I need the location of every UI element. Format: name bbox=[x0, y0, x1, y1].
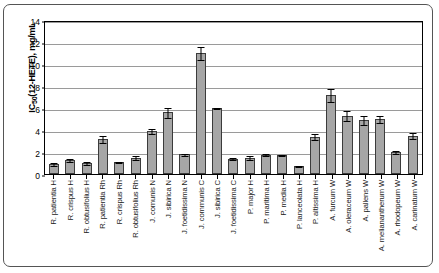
bar-slot bbox=[307, 22, 323, 174]
x-tick-label: R. patientia Rh bbox=[98, 180, 107, 229]
bar-slot bbox=[160, 22, 176, 174]
x-label-slot: J. foetidissima C bbox=[225, 180, 241, 266]
bar-slot bbox=[144, 22, 160, 174]
bar-slot bbox=[405, 22, 421, 174]
x-tick-mark bbox=[152, 175, 153, 179]
bar bbox=[261, 155, 271, 174]
x-tick-slot bbox=[176, 175, 192, 179]
x-label-slot: A. furcum W bbox=[324, 180, 340, 266]
bar-slot bbox=[290, 22, 306, 174]
x-axis-ticks bbox=[44, 175, 423, 179]
bar bbox=[391, 152, 401, 174]
x-label-slot: J. foetidissima N bbox=[176, 180, 192, 266]
y-tick-label: 14 bbox=[31, 17, 40, 27]
error-bar bbox=[54, 163, 55, 166]
x-tick-label: R. patientia H bbox=[49, 180, 58, 225]
error-bar bbox=[184, 154, 185, 157]
bar-slot bbox=[258, 22, 274, 174]
x-tick-label: P. major H bbox=[245, 180, 254, 214]
x-tick-slot bbox=[307, 175, 323, 179]
x-tick-mark bbox=[217, 175, 218, 179]
bar-series bbox=[45, 22, 422, 174]
x-label-slot: R. obtusifolius H bbox=[78, 180, 94, 266]
bar bbox=[196, 53, 206, 174]
x-label-slot: J. sibirica N bbox=[160, 180, 176, 266]
error-bar bbox=[200, 47, 201, 60]
error-bar bbox=[119, 162, 120, 165]
error-bar bbox=[347, 111, 348, 122]
bar bbox=[294, 166, 304, 174]
x-label-slot: A. carinatum W bbox=[406, 180, 422, 266]
x-tick-slot bbox=[258, 175, 274, 179]
x-tick-mark bbox=[283, 175, 284, 179]
x-tick-slot bbox=[291, 175, 307, 179]
x-tick-mark bbox=[135, 175, 136, 179]
x-tick-label: P. lanceolata H bbox=[295, 180, 304, 229]
x-tick-slot bbox=[274, 175, 290, 179]
y-tick-label: 8 bbox=[35, 83, 40, 93]
bar-slot bbox=[46, 22, 62, 174]
x-label-slot: J. sibirica C bbox=[209, 180, 225, 266]
error-bar bbox=[266, 154, 267, 157]
x-tick-label: J. foetidissima C bbox=[229, 180, 238, 234]
x-tick-mark bbox=[233, 175, 234, 179]
bar bbox=[163, 112, 173, 174]
x-tick-mark bbox=[53, 175, 54, 179]
error-bar bbox=[86, 162, 87, 165]
bar bbox=[359, 120, 369, 174]
x-tick-mark bbox=[365, 175, 366, 179]
x-tick-mark bbox=[70, 175, 71, 179]
x-tick-label: J. comunis N bbox=[147, 180, 156, 223]
error-bar bbox=[151, 129, 152, 136]
x-tick-label: A. carinatum W bbox=[409, 180, 418, 231]
x-tick-slot bbox=[242, 175, 258, 179]
bar-slot bbox=[127, 22, 143, 174]
x-label-slot: J. communis C bbox=[193, 180, 209, 266]
error-bar bbox=[168, 108, 169, 119]
x-tick-label: R. obtusifolius Rh bbox=[131, 180, 140, 238]
x-tick-mark bbox=[250, 175, 251, 179]
x-tick-label: J. sibirica C bbox=[213, 180, 222, 218]
error-bar bbox=[314, 134, 315, 141]
bar bbox=[326, 95, 336, 174]
x-tick-slot bbox=[78, 175, 94, 179]
x-label-slot: R. crispus H bbox=[61, 180, 77, 266]
x-tick-label: J. foetidissima N bbox=[180, 180, 189, 234]
x-tick-label: R. crispus H bbox=[65, 180, 74, 220]
error-bar bbox=[380, 116, 381, 125]
x-tick-slot bbox=[406, 175, 422, 179]
bar-slot bbox=[323, 22, 339, 174]
x-tick-slot bbox=[127, 175, 143, 179]
error-bar bbox=[103, 136, 104, 144]
x-tick-mark bbox=[332, 175, 333, 179]
x-label-slot: A. melianantherum W bbox=[373, 180, 389, 266]
x-label-slot: P. altissima H bbox=[307, 180, 323, 266]
x-label-slot: A. rhodopeum W bbox=[389, 180, 405, 266]
bar-slot bbox=[95, 22, 111, 174]
x-tick-mark bbox=[168, 175, 169, 179]
error-bar bbox=[412, 133, 413, 140]
x-tick-mark bbox=[348, 175, 349, 179]
bar-slot bbox=[193, 22, 209, 174]
x-tick-mark bbox=[102, 175, 103, 179]
x-tick-slot bbox=[111, 175, 127, 179]
y-tick-label: 12 bbox=[31, 39, 40, 49]
y-tick-label: 10 bbox=[31, 61, 40, 71]
bar bbox=[228, 159, 238, 174]
y-tick-label: 0 bbox=[35, 171, 40, 181]
x-label-slot: R. patientia Rh bbox=[94, 180, 110, 266]
x-tick-label: P. altissima H bbox=[311, 180, 320, 224]
chart-figure: IC50(12-HETE), mg/mL 02468101214 R. pati… bbox=[0, 0, 439, 273]
bar-slot bbox=[62, 22, 78, 174]
error-bar bbox=[70, 159, 71, 163]
error-bar bbox=[233, 158, 234, 161]
x-label-slot: R. obtusifolius Rh bbox=[127, 180, 143, 266]
bar bbox=[342, 116, 352, 174]
bar bbox=[310, 137, 320, 174]
x-tick-mark bbox=[201, 175, 202, 179]
x-label-slot: P. media H bbox=[274, 180, 290, 266]
x-tick-slot bbox=[160, 175, 176, 179]
x-tick-slot bbox=[209, 175, 225, 179]
bar-slot bbox=[242, 22, 258, 174]
x-label-slot: J. comunis N bbox=[143, 180, 159, 266]
